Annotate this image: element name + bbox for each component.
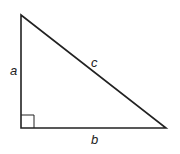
side-b-label: b: [91, 132, 98, 147]
triangle-outline: [21, 15, 166, 128]
right-triangle-diagram: a c b: [0, 0, 180, 154]
side-a-label: a: [10, 63, 17, 78]
hypotenuse-c-label: c: [91, 55, 98, 70]
right-angle-marker: [21, 115, 34, 128]
